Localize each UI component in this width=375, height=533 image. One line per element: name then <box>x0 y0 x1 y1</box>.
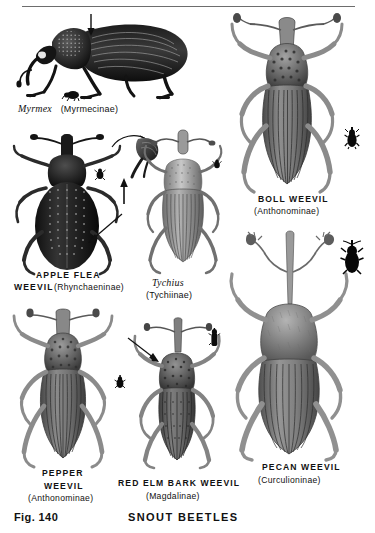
size-silhouette-pecan-weevil <box>340 240 364 276</box>
label-red-elm-bark-weevil-name: RED ELM BARK WEEVIL <box>118 479 240 489</box>
size-silhouette-boll-weevil <box>344 127 360 149</box>
illustration-pecan-weevil <box>228 232 350 460</box>
leader-arrow-apple-flea-weevil <box>86 212 122 244</box>
figure-number: Fig. 140 <box>14 511 58 523</box>
label-tychius-subfamily: (Tychiinae) <box>146 290 192 300</box>
pointer-arrow-myrmex <box>84 14 98 36</box>
header-rule <box>22 6 355 7</box>
label-pepper-weevil-line2: WEEVIL <box>44 482 84 492</box>
label-apple-flea-weevil-line1: APPLE FLEA <box>36 271 100 281</box>
label-myrmex: Myrmex (Myrmecinae) <box>18 103 118 114</box>
illustration-boll-weevil <box>226 14 348 194</box>
label-red-elm-bark-weevil-subfamily: (Magdalinae) <box>146 492 200 502</box>
label-apple-flea-weevil-line2: WEEVIL <box>14 283 54 293</box>
size-silhouette-myrmex <box>63 89 81 101</box>
illustration-apple-flea-weevil <box>12 128 122 276</box>
illustration-tychius <box>140 128 228 274</box>
plate-title: SNOUT BEETLES <box>128 511 239 523</box>
label-boll-weevil-name: BOLL WEEVIL <box>258 195 329 205</box>
size-silhouette-red-elm-bark-weevil <box>208 328 221 348</box>
label-tychius-name: Tychius <box>152 277 184 288</box>
label-myrmex-name: Myrmex <box>18 103 52 114</box>
illustration-pepper-weevil <box>10 308 118 468</box>
label-pecan-weevil-name: PECAN WEEVIL <box>262 463 341 473</box>
leader-arrow-red-elm-bark-weevil <box>128 338 160 362</box>
illustration-myrmex <box>14 14 214 104</box>
label-pepper-weevil-line1: PEPPER <box>42 469 83 479</box>
label-myrmex-subfamily: (Myrmecinae) <box>61 104 118 114</box>
size-silhouette-tychius <box>212 159 222 169</box>
label-apple-flea-weevil-subfamily: (Rhynchaeninae) <box>54 283 124 293</box>
pointer-arrow-apple-flea-weevil <box>118 178 130 204</box>
size-silhouette-apple-flea-weevil <box>94 168 106 180</box>
plate-page: Myrmex (Myrmecinae) <box>0 0 375 533</box>
label-pepper-weevil-subfamily: (Anthonominae) <box>28 494 93 504</box>
label-pecan-weevil-subfamily: (Curculioninae) <box>258 476 321 486</box>
size-silhouette-pepper-weevil <box>114 375 126 389</box>
label-boll-weevil-subfamily: (Anthonominae) <box>254 207 319 217</box>
